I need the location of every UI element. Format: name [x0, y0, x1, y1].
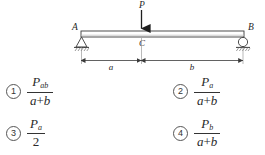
node-label-C: C — [139, 38, 146, 48]
load-label-P: P — [138, 0, 145, 10]
dimension-label-b: b — [190, 62, 195, 72]
option-2-denominator: a+b — [194, 94, 220, 108]
dimension-label-a: a — [109, 62, 114, 72]
dimension-b: b — [142, 61, 244, 73]
option-3-numerator-symbol: P — [30, 116, 38, 131]
option-1-den-right: b — [44, 93, 51, 108]
answer-options: 1 Pab a+b 2 Pa a+b 3 Pa 2 4 Pb a+b — [0, 72, 265, 155]
option-2-den-op: + — [204, 93, 211, 108]
option-2-fraction: Pa a+b — [194, 75, 220, 108]
option-1-den-op: + — [37, 93, 44, 108]
option-2-number: 2 — [173, 84, 188, 99]
option-4-den-right: b — [211, 134, 218, 149]
option-2[interactable]: 2 Pa a+b — [135, 72, 265, 111]
option-4-numerator-symbol: P — [201, 116, 209, 131]
option-4-numerator: Pb — [198, 117, 216, 133]
option-1-fraction: Pab a+b — [27, 75, 53, 108]
option-3-den-left: 2 — [33, 134, 40, 149]
option-3-number: 3 — [6, 126, 21, 141]
option-1-number: 1 — [6, 84, 21, 99]
option-2-numerator: Pa — [198, 75, 216, 91]
option-3[interactable]: 3 Pa 2 — [0, 111, 135, 155]
option-1-numerator-symbol: P — [32, 74, 40, 89]
option-1-numerator: Pab — [29, 75, 51, 91]
node-label-A: A — [71, 22, 78, 32]
option-4-den-op: + — [204, 134, 211, 149]
option-2-numerator-symbol: P — [201, 74, 209, 89]
dimension-a: a — [82, 61, 142, 73]
option-3-numerator-subscript: a — [38, 123, 42, 132]
option-3-fraction: Pa 2 — [27, 117, 45, 150]
option-4[interactable]: 4 Pb a+b — [135, 111, 265, 155]
option-1-denominator: a+b — [27, 94, 53, 108]
beam-diagram: P A B — [0, 0, 265, 76]
option-4-number: 4 — [173, 126, 188, 141]
option-4-fraction: Pb a+b — [194, 117, 220, 150]
node-label-B: B — [248, 22, 254, 32]
option-4-denominator: a+b — [194, 135, 220, 149]
option-3-denominator: 2 — [30, 135, 43, 149]
option-2-numerator-subscript: a — [209, 81, 213, 90]
option-2-den-right: b — [211, 93, 218, 108]
option-1[interactable]: 1 Pab a+b — [0, 72, 135, 111]
option-3-numerator: Pa — [27, 117, 45, 133]
beam-member — [81, 31, 244, 37]
option-1-numerator-subscript: ab — [40, 81, 48, 90]
option-4-numerator-subscript: b — [209, 123, 213, 132]
